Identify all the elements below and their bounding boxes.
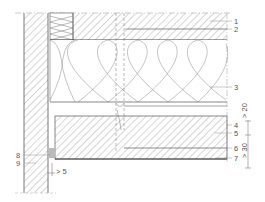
callout-6: 6 [234, 144, 238, 153]
callout-5: 5 [234, 129, 238, 138]
callout-2: 2 [234, 25, 238, 34]
ceiling-slab [55, 116, 227, 159]
mineral-wool-insulation [50, 40, 228, 102]
joint-sealant [48, 148, 55, 158]
dimension-upper: > 20 [240, 103, 249, 118]
callout-3: 3 [234, 83, 238, 92]
gap-dimension [48, 163, 55, 176]
dimension-lower: > 30 [240, 143, 249, 158]
dimension-gap: > 5 [56, 167, 67, 176]
callout-7: 7 [234, 154, 238, 163]
roof-slab [50, 13, 227, 40]
section-drawing: 1 2 3 4 5 6 7 8 9 > 20 > 30 > 5 [0, 0, 265, 202]
edge-insulation [50, 13, 73, 40]
callout-9: 9 [16, 159, 20, 168]
